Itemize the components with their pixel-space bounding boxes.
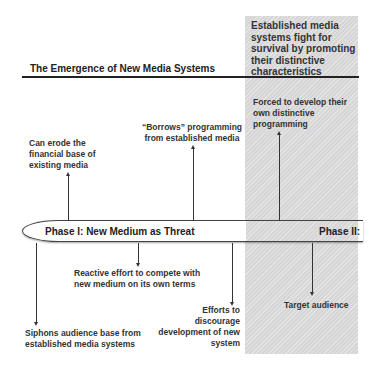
arrow-erode: [68, 176, 69, 221]
arrow-reactive: [138, 243, 139, 263]
arrow-borrows: [193, 149, 194, 221]
arrow-target: [312, 243, 313, 292]
arrow-discourage: [232, 243, 233, 302]
diagram-title: The Emergence of New Media Systems: [30, 63, 215, 74]
arrow-siphons: [36, 243, 37, 322]
note-reactive: Reactive effort to compete with new medi…: [74, 268, 214, 290]
note-erode: Can erode the financial base of existing…: [29, 138, 109, 171]
phase1-label: Phase I: New Medium as Threat: [45, 226, 195, 237]
phase2-heading: Established media systems fight for surv…: [251, 20, 357, 78]
phase2-label: Phase II:: [319, 226, 360, 237]
note-forced: Forced to develop their own distinctive …: [253, 97, 353, 130]
note-borrows: “Borrows” programming from established m…: [137, 122, 247, 144]
arrow-forced: [279, 135, 280, 221]
note-siphons: Siphons audience base from established m…: [25, 328, 155, 350]
note-discourage: Efforts to discourage development of new…: [157, 305, 240, 349]
title-rule: [22, 76, 359, 78]
note-target: Target audience: [284, 300, 364, 311]
